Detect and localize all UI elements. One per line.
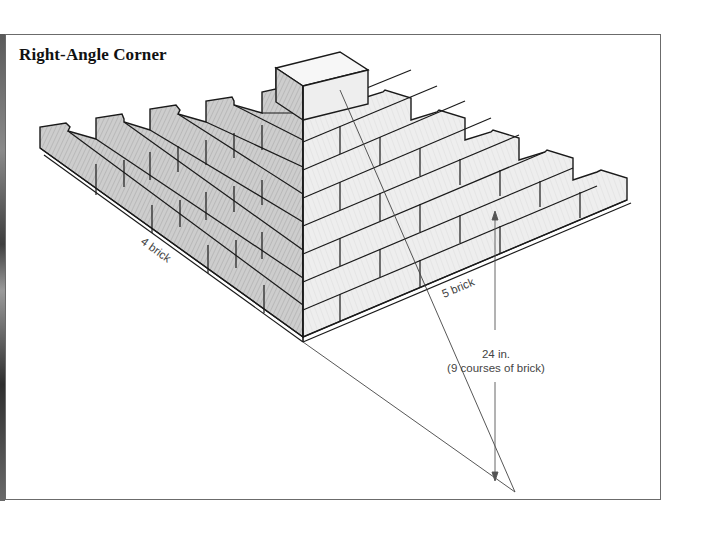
height-note-label: (9 courses of brick) [447, 362, 545, 374]
height-value-label: 24 in. [482, 348, 510, 360]
left-wall [40, 68, 303, 342]
brick-corner-illustration: 4 brick 5 brick 24 in. (9 courses of bri… [0, 0, 701, 534]
right-wall-length-label: 5 brick [440, 275, 476, 299]
right-wall [303, 70, 631, 342]
